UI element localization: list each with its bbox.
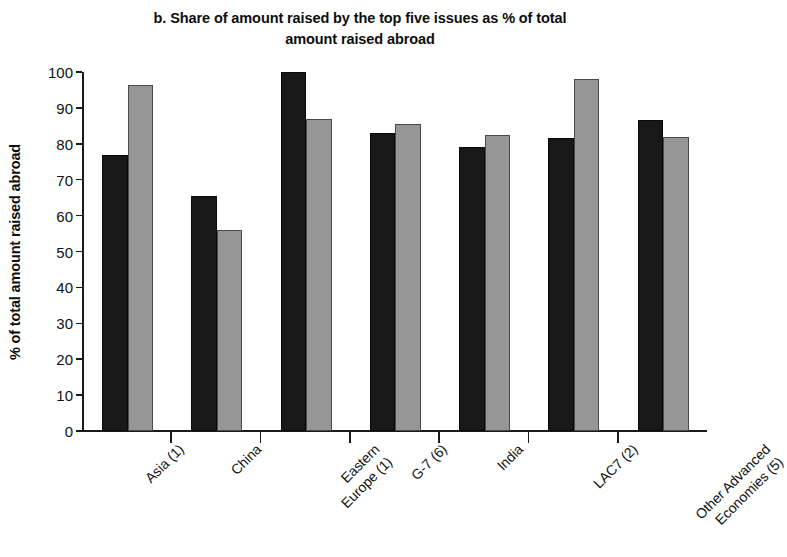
- bar-series-2-0: [128, 85, 154, 431]
- plot-area: 0102030405060708090100Asia (1)ChinaEaste…: [82, 72, 707, 431]
- y-axis-tick: [76, 71, 82, 73]
- x-axis-category-label: LAC7 (2): [590, 441, 641, 492]
- y-axis-tick-label: 20: [56, 351, 73, 368]
- y-axis-tick-label: 100: [48, 64, 73, 81]
- y-axis-tick-label: 0: [65, 423, 73, 440]
- x-axis-tick: [617, 431, 619, 443]
- x-axis-category-label: Other AdvancedEconomies (5): [692, 441, 787, 536]
- y-axis-tick: [76, 430, 82, 432]
- bar-series-2-4: [485, 135, 511, 431]
- x-axis-tick: [260, 431, 262, 443]
- y-axis-tick-label: 70: [56, 171, 73, 188]
- x-axis-category-label: G-7 (6): [408, 441, 451, 484]
- bar-series-1-5: [548, 138, 574, 431]
- bar-series-2-3: [395, 124, 421, 431]
- bar-series-1-4: [459, 147, 485, 431]
- bar-series-2-6: [663, 137, 689, 431]
- y-axis-tick: [76, 179, 82, 181]
- y-axis-tick-label: 60: [56, 207, 73, 224]
- y-axis-tick: [76, 215, 82, 217]
- y-axis-tick-label: 90: [56, 99, 73, 116]
- bar-series-1-2: [281, 72, 307, 431]
- y-axis-tick: [76, 323, 82, 325]
- x-axis-tick: [528, 431, 530, 443]
- bar-series-1-1: [191, 196, 217, 431]
- y-axis-line: [82, 72, 84, 431]
- y-axis-tick-label: 50: [56, 243, 73, 260]
- y-axis-title: % of total amount raised abroad: [7, 144, 23, 360]
- x-axis-category-label: China: [227, 441, 265, 479]
- chart-title-line-1: b. Share of amount raised by the top fiv…: [154, 10, 567, 26]
- bar-series-1-6: [638, 120, 664, 431]
- bar-series-1-0: [102, 155, 128, 431]
- bar-series-1-3: [370, 133, 396, 431]
- y-axis-tick: [76, 107, 82, 109]
- y-axis-tick: [76, 287, 82, 289]
- x-axis-category-label: Asia (1): [141, 441, 187, 487]
- y-axis-tick-label: 80: [56, 135, 73, 152]
- x-axis-tick: [438, 431, 440, 443]
- x-axis-tick: [349, 431, 351, 443]
- y-axis-tick: [76, 143, 82, 145]
- bar-series-2-5: [574, 79, 600, 431]
- bar-series-2-2: [306, 119, 332, 431]
- bar-series-2-1: [217, 230, 243, 431]
- chart-title: b. Share of amount raised by the top fiv…: [110, 8, 610, 50]
- y-axis-tick-label: 10: [56, 387, 73, 404]
- x-axis-tick: [170, 431, 172, 443]
- y-axis-tick-label: 40: [56, 279, 73, 296]
- y-axis-tick: [76, 358, 82, 360]
- chart-title-line-2: amount raised abroad: [285, 31, 434, 47]
- x-axis-category-label: India: [493, 441, 526, 474]
- y-axis-tick-label: 30: [56, 315, 73, 332]
- x-axis-category-label: EasternEurope (1): [325, 441, 396, 512]
- y-axis-tick: [76, 251, 82, 253]
- y-axis-tick: [76, 394, 82, 396]
- y-axis-title-container: % of total amount raised abroad: [2, 72, 28, 432]
